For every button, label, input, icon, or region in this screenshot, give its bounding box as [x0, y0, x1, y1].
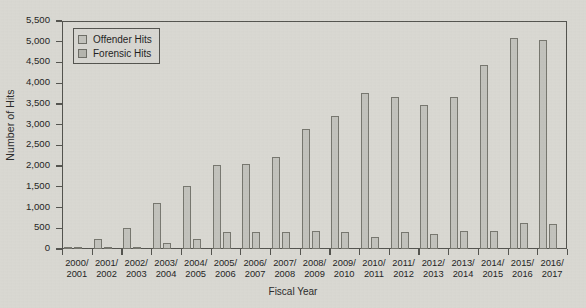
y-axis-tick-label: 2,500	[26, 138, 50, 149]
bar-forensic-hits	[223, 232, 231, 249]
bar-offender-hits	[153, 203, 161, 249]
y-axis-tick-label: 0	[45, 242, 50, 253]
bar-forensic-hits	[193, 239, 201, 249]
x-axis-tick-mark	[300, 249, 301, 255]
x-axis-tick-mark	[448, 249, 449, 255]
legend-swatch-icon	[78, 49, 87, 58]
bar-group	[537, 21, 567, 249]
bar-offender-hits	[242, 164, 250, 249]
bar-group	[508, 21, 538, 249]
bar-group	[418, 21, 448, 249]
y-axis-tick-label: 4,000	[26, 76, 50, 87]
bar-forensic-hits	[104, 247, 112, 249]
x-axis-tick-mark	[537, 249, 538, 255]
x-axis-tick-mark	[329, 249, 330, 255]
y-axis-tick-label: 3,000	[26, 118, 50, 129]
x-axis-tick-mark	[478, 249, 479, 255]
x-axis-tick-mark	[389, 249, 390, 255]
bar-forensic-hits	[163, 243, 171, 249]
bar-offender-hits	[361, 93, 369, 249]
x-axis-tick-mark	[121, 249, 122, 255]
bar-forensic-hits	[520, 223, 528, 249]
x-axis-tick-mark	[418, 249, 419, 255]
bar-forensic-hits	[549, 224, 557, 249]
bar-offender-hits	[302, 129, 310, 249]
bar-chart-figure: Number of Hits 5,5005,0004,5004,0003,500…	[0, 0, 586, 308]
bar-offender-hits	[213, 165, 221, 249]
bar-group	[240, 21, 270, 249]
bar-group	[389, 21, 419, 249]
y-axis-tick-label: 500	[34, 221, 50, 232]
bar-forensic-hits	[282, 232, 290, 249]
y-axis-tick-label: 2,000	[26, 159, 50, 170]
bar-forensic-hits	[252, 232, 260, 249]
y-axis-tick-label: 4,500	[26, 55, 50, 66]
x-axis-tick-mark	[567, 249, 568, 255]
bar-offender-hits	[272, 157, 280, 249]
y-axis-title: Number of Hits	[2, 0, 18, 250]
bar-offender-hits	[450, 97, 458, 249]
bar-offender-hits	[331, 116, 339, 249]
y-axis-tick-label: 5,000	[26, 35, 50, 46]
bar-offender-hits	[420, 105, 428, 249]
bar-group	[448, 21, 478, 249]
bar-forensic-hits	[371, 237, 379, 249]
chart-legend: Offender HitsForensic Hits	[73, 28, 160, 64]
bar-forensic-hits	[312, 231, 320, 249]
legend-item-label: Offender Hits	[93, 34, 152, 45]
x-axis-tick-mark	[211, 249, 212, 255]
x-axis-tick-label: 2016/2017	[530, 258, 574, 279]
y-axis-title-text: Number of Hits	[4, 89, 16, 160]
bar-offender-hits	[391, 97, 399, 249]
x-axis-tick-mark	[62, 249, 63, 255]
y-axis-tick-label: 1,000	[26, 201, 50, 212]
bar-forensic-hits	[401, 232, 409, 249]
y-axis-tick-label: 3,500	[26, 97, 50, 108]
x-axis-tick-mark	[240, 249, 241, 255]
legend-swatch-icon	[78, 35, 87, 44]
bar-offender-hits	[123, 228, 131, 249]
bar-group	[181, 21, 211, 249]
bar-offender-hits	[510, 38, 518, 249]
bar-forensic-hits	[460, 231, 468, 249]
x-axis-tick-mark	[270, 249, 271, 255]
x-axis-tick-mark	[508, 249, 509, 255]
y-axis-tick-label: 1,500	[26, 180, 50, 191]
bar-forensic-hits	[74, 247, 82, 249]
legend-item: Offender Hits	[78, 32, 152, 46]
x-axis-title: Fiscal Year	[0, 286, 586, 297]
legend-item: Forensic Hits	[78, 46, 152, 60]
bar-forensic-hits	[490, 231, 498, 249]
bar-offender-hits	[183, 186, 191, 249]
bar-group	[359, 21, 389, 249]
bar-group	[270, 21, 300, 249]
bar-offender-hits	[539, 40, 547, 249]
x-axis-tick-mark	[181, 249, 182, 255]
bar-group	[300, 21, 330, 249]
bar-offender-hits	[480, 65, 488, 249]
bar-group	[478, 21, 508, 249]
bar-offender-hits	[94, 239, 102, 249]
x-axis-tick-mark	[151, 249, 152, 255]
bar-forensic-hits	[341, 232, 349, 249]
bar-group	[329, 21, 359, 249]
bar-group	[211, 21, 241, 249]
bar-forensic-hits	[430, 234, 438, 249]
bar-forensic-hits	[133, 247, 141, 249]
legend-item-label: Forensic Hits	[93, 48, 151, 59]
x-axis-tick-mark	[359, 249, 360, 255]
y-axis-tick-label: 5,500	[26, 14, 50, 25]
x-axis-tick-mark	[92, 249, 93, 255]
bar-offender-hits	[64, 247, 72, 249]
